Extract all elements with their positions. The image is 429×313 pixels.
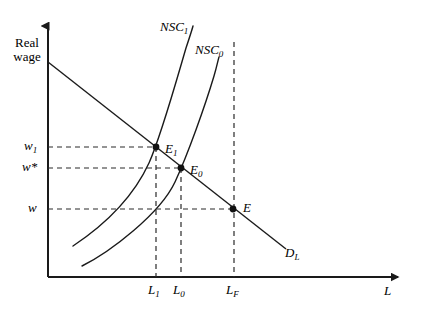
x-axis-title-text: L xyxy=(384,283,391,298)
point-marker-E xyxy=(230,206,237,213)
economics-diagram: Real wage L NSC1 NSC0 DL E1 E0 E w1 w* w… xyxy=(0,0,429,313)
y-tick-label-wstar: w* xyxy=(22,160,37,174)
point-label-E1-main: E xyxy=(165,141,173,156)
curve-label-nsc1-main: NSC xyxy=(160,19,184,34)
point-label-E0-main: E xyxy=(190,162,198,177)
point-label-E: E xyxy=(243,201,251,215)
y-axis-title-line1: Real xyxy=(15,35,39,50)
point-label-E1: E1 xyxy=(165,142,177,156)
point-marker-E0 xyxy=(178,165,185,172)
point-label-E0: E0 xyxy=(190,163,202,177)
x-tick-label-L0: L0 xyxy=(173,283,185,297)
point-label-E1-sub: 1 xyxy=(173,148,178,158)
curve-label-nsc0-sub: 0 xyxy=(219,49,224,59)
y-tick-label-w1: w1 xyxy=(24,139,37,153)
notional-supply-curve-1 xyxy=(73,26,193,246)
point-label-E0-sub: 0 xyxy=(198,169,203,179)
curve-label-nsc0-main: NSC xyxy=(195,42,219,57)
curve-label-nsc1: NSC1 xyxy=(160,20,188,34)
y-tick-label-w1-sub: 1 xyxy=(33,145,38,155)
curve-label-dl-main: D xyxy=(285,245,294,260)
y-axis-title: Real wage xyxy=(6,36,48,64)
x-tick-label-L1-sub: 1 xyxy=(155,289,160,299)
notional-supply-curve-0 xyxy=(82,57,219,266)
x-tick-label-LF: LF xyxy=(226,283,239,297)
curve-label-dl-sub: L xyxy=(294,252,299,262)
curve-label-nsc0: NSC0 xyxy=(195,43,223,57)
curve-label-dl: DL xyxy=(285,246,299,260)
x-tick-label-LF-sub: F xyxy=(233,289,239,299)
x-tick-label-L0-sub: 0 xyxy=(180,289,185,299)
x-tick-label-L1: L1 xyxy=(148,283,160,297)
y-axis-title-line2: wage xyxy=(13,49,40,64)
y-tick-label-w-main: w xyxy=(28,200,37,215)
curve-label-nsc1-sub: 1 xyxy=(184,26,189,36)
y-tick-label-w: w xyxy=(28,201,37,215)
y-tick-label-wstar-main: w* xyxy=(22,159,37,174)
x-axis-title: L xyxy=(384,284,391,298)
point-marker-E1 xyxy=(153,144,160,151)
y-tick-label-w1-main: w xyxy=(24,138,33,153)
point-label-E-main: E xyxy=(243,200,251,215)
